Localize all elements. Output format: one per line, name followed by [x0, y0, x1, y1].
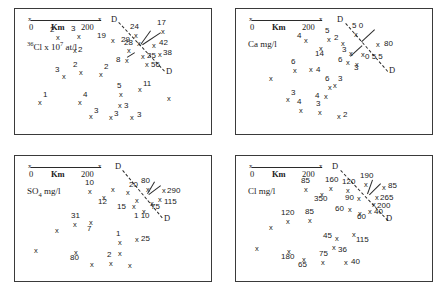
sample-point-marker: x — [145, 61, 149, 69]
sample-point-value: 2 — [50, 26, 54, 34]
sample-point-marker: x — [286, 96, 290, 104]
sample-point-marker: x — [162, 187, 166, 195]
sample-point-marker: x — [127, 47, 131, 55]
sample-point-value: 3 — [316, 100, 320, 108]
panel-cl36: xx0Km20036Cl x 107 at/lDDx2x3x2x19x24x17… — [14, 8, 212, 135]
sample-point-marker: x — [118, 102, 122, 110]
sample-point-marker: x — [354, 31, 358, 39]
sample-point-marker: x — [111, 37, 115, 45]
sample-point-marker: x — [128, 262, 132, 270]
sample-point-value: 2 — [73, 61, 77, 69]
sample-point-value: 4 — [297, 98, 301, 106]
sample-point-marker: x — [130, 114, 134, 122]
sample-point-marker: x — [138, 86, 142, 94]
sample-point-marker: x — [73, 47, 77, 55]
scale-bar-zero-label: 0 — [29, 170, 33, 179]
sample-point-value: 2 — [107, 251, 111, 259]
sample-point-value: 28 — [124, 39, 133, 47]
sample-point-marker: x — [132, 203, 136, 211]
sample-point-value: 40 — [374, 208, 383, 216]
panel-so4: xx0Km200SO4 mg/lDDx10xx12x20x80x290x115x… — [14, 155, 212, 282]
panel-unit-label: 36Cl x 107 at/l — [27, 39, 77, 52]
sample-point-marker: x — [344, 259, 348, 267]
sample-point-marker: x — [269, 224, 273, 232]
sample-point-value: 1 — [43, 91, 47, 99]
sample-point-marker: x — [304, 37, 308, 45]
sample-point-marker: x — [34, 247, 38, 255]
sample-point-value: 45 — [323, 232, 332, 240]
sample-point-value: 36 — [338, 246, 347, 254]
scale-bar-unit-label: Km — [51, 170, 65, 179]
boundary-dashed-line — [345, 23, 388, 72]
boundary-label-d-bottom: D — [166, 67, 172, 76]
sample-point-value: 85 — [301, 177, 310, 185]
scale-bar-line — [31, 20, 101, 21]
sample-point-value: 80 — [384, 40, 393, 48]
sample-point-value: 4 — [316, 66, 320, 74]
sample-point-value: 2 — [334, 34, 338, 42]
sample-point-value: 5 — [117, 82, 121, 90]
boundary-label-d-top: D — [115, 162, 121, 171]
sample-point-value: 11 — [143, 80, 151, 88]
sample-point-value: 5 — [325, 27, 329, 35]
sample-point-marker: x — [109, 114, 113, 122]
sample-point-value: 5 0 — [352, 22, 363, 30]
sample-point-value: 12 — [98, 198, 107, 206]
sample-point-value: 3 — [114, 110, 118, 118]
sample-point-value: 6 — [291, 58, 295, 66]
sample-point-marker: x — [337, 113, 341, 121]
scale-bar-max-label: 200 — [81, 23, 94, 32]
boundary-label-d-top: D — [337, 15, 343, 24]
scale-bar-max-label: 200 — [302, 23, 315, 32]
sample-point-marker: x — [161, 28, 165, 36]
sample-point-marker: x — [328, 84, 332, 92]
sample-point-marker: x — [255, 245, 259, 253]
sample-point-marker: x — [135, 236, 139, 244]
sample-point-marker: x — [56, 34, 60, 42]
sample-point-value: 350 — [314, 195, 327, 203]
sample-point-value: 40 — [351, 258, 360, 266]
sample-point-marker: x — [327, 36, 331, 44]
sample-point-marker: x — [364, 181, 368, 189]
sample-point-value: 3 — [354, 64, 358, 72]
sample-point-value: 115 — [164, 198, 177, 206]
sample-point-marker: x — [286, 218, 290, 226]
sample-point-marker: x — [109, 260, 113, 268]
sample-point-marker: x — [38, 99, 42, 107]
sample-point-marker: x — [118, 239, 122, 247]
sample-point-value: 3 — [137, 111, 141, 119]
figure-four-panel-maps: xx0Km20036Cl x 107 at/lDDx2x3x2x19x24x17… — [0, 0, 442, 293]
sample-point-marker: x — [329, 185, 333, 193]
boundary-label-d-top: D — [332, 162, 338, 171]
scale-bar-line — [31, 167, 101, 168]
sample-point-value: 80 — [70, 254, 79, 262]
sample-point-marker: x — [293, 67, 297, 75]
scale-bar-zero-label: 0 — [29, 23, 33, 32]
panel-unit-label: Cl mg/l — [248, 186, 275, 196]
sample-point-value: 3 — [342, 46, 346, 54]
sample-point-marker: x — [126, 189, 130, 197]
scale-bar-line — [252, 20, 322, 21]
sample-point-value: 2 — [104, 63, 108, 71]
sample-point-value: 115 — [356, 236, 369, 244]
sample-point-value: 60 — [357, 213, 366, 221]
sample-point-marker: x — [125, 57, 129, 65]
scale-bar: xx0Km200 — [27, 162, 105, 178]
sample-point-value: 2 — [343, 111, 347, 119]
sample-point-value: 38 — [163, 49, 172, 57]
panel-unit-label: SO4 mg/l — [27, 186, 61, 200]
sample-point-marker: x — [152, 42, 156, 50]
sample-point-value: 120 — [281, 209, 294, 217]
sample-point-marker: x — [89, 113, 93, 121]
sample-point-value: 85 — [388, 182, 397, 190]
sample-point-value: 190 — [360, 172, 373, 180]
sample-point-marker: x — [304, 186, 308, 194]
sample-point-value: 8 — [116, 56, 120, 64]
scale-bar-zero-label: 0 — [250, 170, 254, 179]
sample-point-value: 20 — [129, 181, 138, 189]
boundary-label-d-bottom: D — [389, 66, 395, 75]
sample-point-value: 10 — [85, 179, 94, 187]
sample-point-marker: x — [357, 195, 361, 203]
sample-point-marker: x — [348, 206, 352, 214]
boundary-label-d-top: D — [111, 15, 117, 24]
